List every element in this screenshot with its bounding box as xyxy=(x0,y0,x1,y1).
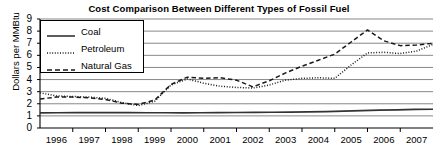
chart-legend: Coal Petroleum Natural Gas xyxy=(40,20,144,73)
legend-item-natural-gas: Natural Gas xyxy=(46,58,132,73)
fossil-fuel-cost-line-chart: Cost Comparison Between Different Types … xyxy=(0,0,438,160)
series-line-coal xyxy=(40,109,433,113)
legend-item-petroleum: Petroleum xyxy=(46,41,124,56)
x-axis-tick-marks xyxy=(73,128,401,132)
legend-label-natural-gas: Natural Gas xyxy=(81,61,132,71)
legend-label-coal: Coal xyxy=(81,27,101,37)
solid-line-swatch xyxy=(46,27,76,37)
dotted-line-swatch xyxy=(46,44,76,54)
legend-item-coal: Coal xyxy=(46,24,101,39)
dashed-line-swatch xyxy=(46,61,76,71)
legend-label-petroleum: Petroleum xyxy=(81,44,124,54)
